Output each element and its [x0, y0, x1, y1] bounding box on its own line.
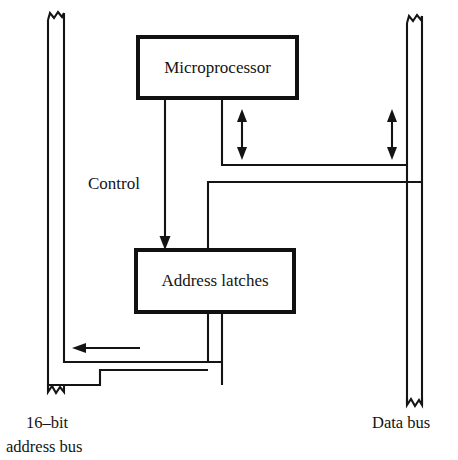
diagram-canvas: Microprocessor Address latches Control 1… [0, 0, 458, 460]
cpu-data-arrowhead-down [237, 147, 247, 160]
address-bus-torn-top [48, 12, 64, 20]
control-label: Control [88, 174, 140, 193]
address-bus-caption-line1: 16–bit [26, 413, 69, 432]
data-bus-caption: Data bus [372, 413, 430, 432]
microprocessor-label: Microprocessor [164, 58, 271, 77]
control-signal-arrow [160, 98, 171, 250]
data-bus-torn-top [407, 15, 422, 23]
cpu-data-upper-connector [222, 100, 407, 165]
data-bus-torn-bottom [407, 398, 422, 406]
address-bus-torn-bottom [48, 385, 64, 393]
address-arrowhead-left [72, 343, 86, 353]
control-arrowhead-down [160, 236, 171, 250]
block-address-latches[interactable]: Address latches [136, 250, 294, 312]
bus-data-arrowhead-down [387, 147, 397, 160]
data-bus-group [407, 15, 422, 406]
bus-data-arrowhead-up [387, 109, 397, 122]
address-latches-label: Address latches [161, 271, 268, 290]
block-microprocessor[interactable]: Microprocessor [138, 37, 297, 98]
bus-data-bidirectional-arrow [387, 109, 397, 160]
cpu-data-arrowhead-up [237, 109, 247, 122]
cpu-data-lower-connector [208, 182, 422, 250]
cpu-data-bidirectional-arrow [237, 109, 247, 160]
address-bus-caption-line2: address bus [6, 437, 83, 456]
address-output-arrow [72, 343, 140, 353]
block-diagram-svg: Microprocessor Address latches Control 1… [0, 0, 458, 460]
